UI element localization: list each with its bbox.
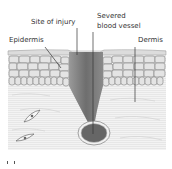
label-severed-line2: blood vessel: [97, 22, 141, 30]
diagram-graphic: [0, 0, 172, 169]
label-severed-line1: Severed: [97, 12, 126, 20]
footer-marks: [7, 161, 15, 164]
label-epidermis: Epidermis: [9, 36, 44, 44]
skin-wound-diagram: Site of injury Severed blood vessel Epid…: [0, 0, 172, 169]
label-dermis: Dermis: [138, 36, 163, 44]
epidermis-cells-right: [103, 56, 165, 86]
epidermis-cells-left: [9, 56, 69, 86]
label-site-of-injury: Site of injury: [31, 18, 75, 26]
